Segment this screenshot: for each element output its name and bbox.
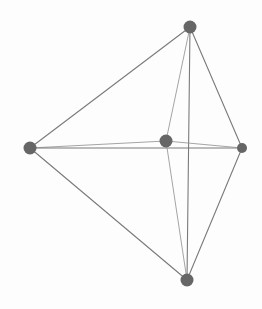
node-center xyxy=(160,135,173,148)
node-top xyxy=(184,21,197,34)
node-bottom xyxy=(181,274,194,287)
node-left xyxy=(24,142,37,155)
diagram-background xyxy=(0,0,262,309)
graph-diagram xyxy=(0,0,262,309)
node-right xyxy=(237,143,247,153)
